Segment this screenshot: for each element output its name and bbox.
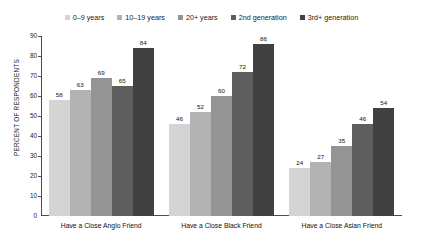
bar[interactable] [310, 162, 331, 216]
bars-0: 5863696584 [49, 36, 154, 216]
bar-groups: 586369658446526072862427354654 [41, 36, 402, 216]
bar[interactable] [289, 168, 310, 216]
bar-slot-1-2: 60 [211, 36, 232, 216]
bar-slot-0-0: 58 [49, 36, 70, 216]
bar-group-2: 2427354654 [282, 36, 402, 216]
legend-label-4: 3rd+ generation [308, 14, 359, 21]
legend-swatch-icon-4 [300, 15, 305, 20]
y-tick-label-70: 70 [19, 73, 37, 79]
bar-slot-2-0: 24 [289, 36, 310, 216]
bar-group-1: 4652607286 [161, 36, 281, 216]
bar[interactable] [253, 44, 274, 216]
legend-item-4: 3rd+ generation [300, 14, 359, 21]
legend-label-1: 10–19 years [125, 14, 165, 21]
bar-slot-2-2: 35 [331, 36, 352, 216]
bar-slot-2-4: 54 [373, 36, 394, 216]
legend-swatch-icon-2 [178, 15, 183, 20]
bar-value-label: 24 [289, 160, 310, 166]
y-tick-label-50: 50 [19, 113, 37, 119]
y-tick-label-10: 10 [19, 193, 37, 199]
bar-slot-1-1: 52 [190, 36, 211, 216]
bar-value-label: 46 [169, 116, 190, 122]
x-axis-categories: Have a Close Anglo Friend Have a Close B… [41, 222, 402, 229]
bar-chart: 0–9 years 10–19 years 20+ years 2nd gene… [0, 0, 423, 249]
legend-swatch-icon-1 [117, 15, 122, 20]
bar-value-label: 52 [190, 104, 211, 110]
y-tick-label-40: 40 [19, 133, 37, 139]
category-label-1: Have a Close Black Friend [161, 222, 281, 229]
bar[interactable] [211, 96, 232, 216]
bar-value-label: 72 [232, 64, 253, 70]
category-label-2: Have a Close Asian Friend [282, 222, 402, 229]
y-tick-label-0: 0 [19, 213, 37, 219]
bar-slot-0-4: 84 [133, 36, 154, 216]
bar-value-label: 63 [70, 82, 91, 88]
bar-value-label: 60 [211, 88, 232, 94]
y-tick-label-20: 20 [19, 173, 37, 179]
bar-slot-1-3: 72 [232, 36, 253, 216]
bar[interactable] [169, 124, 190, 216]
bar[interactable] [133, 48, 154, 216]
bar-slot-1-4: 86 [253, 36, 274, 216]
bar-slot-0-2: 69 [91, 36, 112, 216]
bar-slot-2-1: 27 [310, 36, 331, 216]
y-tick-label-80: 80 [19, 53, 37, 59]
legend-label-2: 20+ years [186, 14, 218, 21]
legend-swatch-icon-0 [65, 15, 70, 20]
bar[interactable] [232, 72, 253, 216]
y-tick-label-60: 60 [19, 93, 37, 99]
legend-item-3: 2nd generation [231, 14, 287, 21]
legend-item-0: 0–9 years [65, 14, 105, 21]
bar-value-label: 54 [373, 100, 394, 106]
legend-swatch-icon-3 [231, 15, 236, 20]
bar-value-label: 69 [91, 70, 112, 76]
y-tick-label-30: 30 [19, 153, 37, 159]
bar[interactable] [70, 90, 91, 216]
bar-slot-0-1: 63 [70, 36, 91, 216]
bar-value-label: 86 [253, 36, 274, 42]
bar-value-label: 46 [352, 116, 373, 122]
bar-value-label: 58 [49, 92, 70, 98]
bar[interactable] [352, 124, 373, 216]
bar[interactable] [190, 112, 211, 216]
bar-value-label: 27 [310, 154, 331, 160]
legend-label-0: 0–9 years [73, 14, 105, 21]
bar-slot-2-3: 46 [352, 36, 373, 216]
legend-label-3: 2nd generation [239, 14, 287, 21]
legend-item-1: 10–19 years [117, 14, 165, 21]
legend-item-2: 20+ years [178, 14, 218, 21]
bar[interactable] [373, 108, 394, 216]
bar-slot-0-3: 65 [112, 36, 133, 216]
bar[interactable] [112, 86, 133, 216]
bar-value-label: 84 [133, 40, 154, 46]
plot-area: 0102030405060708090 58636965844652607286… [41, 36, 402, 216]
category-label-0: Have a Close Anglo Friend [41, 222, 161, 229]
bar-group-0: 5863696584 [41, 36, 161, 216]
bars-1: 4652607286 [169, 36, 274, 216]
bar-slot-1-0: 46 [169, 36, 190, 216]
bar[interactable] [91, 78, 112, 216]
bar[interactable] [49, 100, 70, 216]
bar-value-label: 35 [331, 138, 352, 144]
bar[interactable] [331, 146, 352, 216]
chart-legend: 0–9 years 10–19 years 20+ years 2nd gene… [0, 14, 423, 21]
y-tick-label-90: 90 [19, 33, 37, 39]
bars-2: 2427354654 [289, 36, 394, 216]
bar-value-label: 65 [112, 78, 133, 84]
